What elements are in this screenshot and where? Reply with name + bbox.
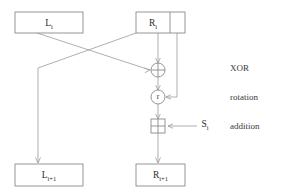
- annotation-xor: XOR: [230, 63, 249, 73]
- annotation-addition: addition: [230, 121, 260, 131]
- node-right-in-box: [136, 12, 185, 33]
- annotation-rotation: rotation: [230, 92, 258, 102]
- edge-right-compartment-to-rotation: [166, 33, 177, 97]
- edge-left-in-to-xor-arrowhead: [145, 68, 151, 73]
- feistel-diagram: Li Ri Li+1 Ri+1 r Si XOR rotation additi…: [0, 0, 282, 196]
- subkey-label: Si: [201, 119, 208, 130]
- edge-right-in-to-left-out: [38, 33, 136, 163]
- diagram-canvas: Li Ri Li+1 Ri+1 r Si XOR rotation additi…: [0, 0, 282, 196]
- edge-left-in-to-xor: [37, 33, 150, 70]
